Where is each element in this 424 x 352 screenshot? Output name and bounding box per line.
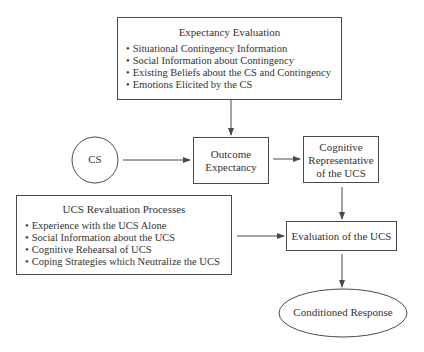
list-item: Experience with the UCS Alone xyxy=(25,220,231,232)
conditioned-response-label: Conditioned Response xyxy=(279,306,407,319)
expectancy-evaluation-list: Situational Contingency Information Soci… xyxy=(126,43,341,91)
outcome-expectancy-box: Outcome Expectancy xyxy=(193,137,269,184)
cognitive-representative-box: Cognitive Representative of the UCS xyxy=(303,136,379,183)
evaluation-of-ucs-box: Evaluation of the UCS xyxy=(286,221,397,251)
ucs-revaluation-title: UCS Revaluation Processes xyxy=(25,203,223,216)
expectancy-evaluation-title: Expectancy Evaluation xyxy=(126,26,333,39)
cognitive-line-1: Cognitive xyxy=(304,140,378,153)
evaluation-of-ucs-label: Evaluation of the UCS xyxy=(287,230,396,243)
ucs-revaluation-list: Experience with the UCS Alone Social Inf… xyxy=(25,220,231,268)
list-item: Cognitive Rehearsal of UCS xyxy=(25,244,231,256)
ucs-revaluation-box: UCS Revaluation Processes Experience wit… xyxy=(16,195,232,275)
cognitive-line-3: of the UCS xyxy=(304,166,378,179)
list-item: Social Information about Contingency xyxy=(126,55,341,67)
list-item: Social Information about the UCS xyxy=(25,232,231,244)
outcome-line-1: Outcome xyxy=(194,148,268,161)
cs-label: CS xyxy=(72,153,118,166)
outcome-line-2: Expectancy xyxy=(194,161,268,174)
outcome-expectancy-label: Outcome Expectancy xyxy=(194,148,268,174)
list-item: Existing Beliefs about the CS and Contin… xyxy=(126,67,341,79)
list-item: Coping Strategies which Neutralize the U… xyxy=(25,256,231,268)
cognitive-representative-label: Cognitive Representative of the UCS xyxy=(304,140,378,179)
expectancy-evaluation-box: Expectancy Evaluation Situational Contin… xyxy=(117,17,342,100)
list-item: Emotions Elicited by the CS xyxy=(126,79,341,91)
list-item: Situational Contingency Information xyxy=(126,43,341,55)
cognitive-line-2: Representative xyxy=(304,153,378,166)
